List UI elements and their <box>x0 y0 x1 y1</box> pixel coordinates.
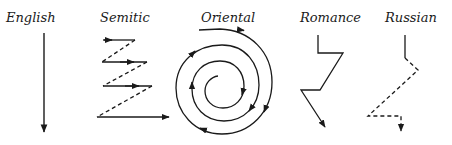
diagram-canvas <box>0 0 452 145</box>
oriental-spiral <box>176 29 272 134</box>
semitic-zigzag <box>97 40 169 117</box>
romance-path <box>301 35 343 127</box>
russian-path <box>368 35 418 131</box>
